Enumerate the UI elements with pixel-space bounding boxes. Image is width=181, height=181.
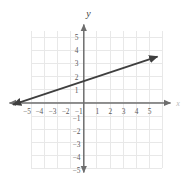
y-tick-label-neg3: −3	[73, 140, 81, 149]
y-tick-label-5: 5	[75, 33, 79, 42]
y-tick-label-2: 2	[75, 73, 79, 82]
y-tick-label-neg5: −5	[73, 166, 81, 175]
y-tick-label-neg1: −1	[73, 114, 81, 123]
x-tick-label-3: 3	[122, 107, 126, 116]
y-tick-label-neg2: −2	[73, 127, 81, 136]
x-tick-label-1: 1	[95, 107, 99, 116]
coordinate-plane-figure: −5 −4 −3 −2 −1 1 2 3 4 5 5 4 3 2 1 −1 −2…	[0, 0, 181, 181]
y-tick-labels: 5 4 3 2 1 −1 −2 −3 −4 −5	[73, 33, 81, 175]
y-tick-label-4: 4	[75, 46, 79, 55]
y-tick-label-3: 3	[75, 59, 79, 68]
grid-lines	[31, 31, 162, 169]
x-tick-labels: −5 −4 −3 −2 −1 1 2 3 4 5	[23, 107, 152, 116]
y-axis-title: y	[85, 8, 91, 19]
x-tick-label-neg4: −4	[35, 107, 43, 116]
y-tick-label-1: 1	[75, 86, 79, 95]
x-tick-label-2: 2	[109, 107, 113, 116]
x-tick-label-neg3: −3	[49, 107, 57, 116]
x-axis-title: x	[175, 99, 180, 108]
x-tick-label-4: 4	[135, 107, 139, 116]
x-tick-label-neg2: −2	[62, 107, 70, 116]
x-tick-label-5: 5	[148, 107, 152, 116]
coordinate-plane-svg: −5 −4 −3 −2 −1 1 2 3 4 5 5 4 3 2 1 −1 −2…	[0, 0, 181, 181]
y-tick-label-neg4: −4	[73, 153, 81, 162]
x-tick-label-neg5: −5	[23, 107, 31, 116]
